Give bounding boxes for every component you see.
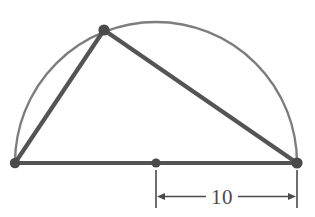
vertex-dot-right xyxy=(291,157,302,168)
vertex-dot-left xyxy=(10,158,20,168)
vertex-dot-center xyxy=(151,158,160,167)
dimension-label: 10 xyxy=(211,185,233,209)
vertex-dot-apex xyxy=(98,24,109,35)
diagram-canvas: 10 xyxy=(0,0,315,217)
geometry-figure: 10 xyxy=(0,0,315,217)
figure-background xyxy=(0,0,315,217)
